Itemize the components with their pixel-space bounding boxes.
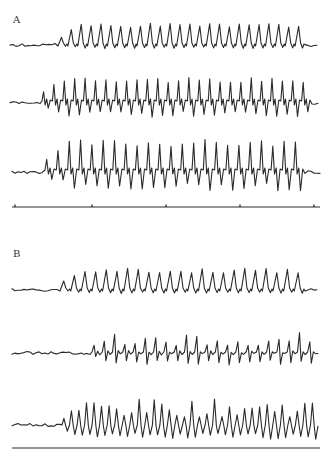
eeg-seizure-figure: A B [0, 0, 335, 466]
trace-b3 [12, 399, 318, 439]
trace-b2 [12, 333, 318, 365]
waveform-traces [0, 0, 335, 466]
trace-a2 [10, 78, 318, 118]
trace-b1 [12, 268, 317, 293]
trace-a1 [10, 23, 317, 48]
trace-a3 [12, 140, 320, 191]
